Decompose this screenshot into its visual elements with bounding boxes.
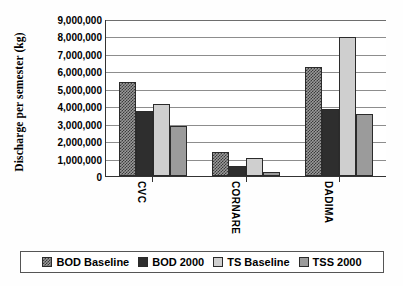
bar[interactable] <box>212 152 229 176</box>
bar[interactable] <box>356 114 373 176</box>
y-axis-tick-label: 1,000,000 <box>58 154 103 165</box>
x-axis-tick <box>246 177 247 182</box>
legend-label: BOD Baseline <box>56 256 129 268</box>
bar[interactable] <box>170 126 187 176</box>
bar[interactable] <box>305 67 322 176</box>
legend-item[interactable]: TS Baseline <box>213 256 289 268</box>
x-axis-category: DADIMA <box>292 179 386 241</box>
x-axis-category-label: CVC <box>136 181 147 203</box>
bar[interactable] <box>246 158 263 176</box>
y-axis-tick-label: 9,000,000 <box>58 15 103 26</box>
chart-legend: BOD BaselineBOD 2000TS BaselineTSS 2000 <box>20 251 384 273</box>
legend-swatch-icon <box>42 257 52 267</box>
bar-groups <box>106 20 386 176</box>
chart-figure: Discharge per semester (kg) 9,000,0008,0… <box>0 0 403 286</box>
legend-swatch-icon <box>138 257 148 267</box>
plot-area <box>105 20 386 177</box>
bar-group <box>199 20 292 176</box>
x-axis-category-label: DADIMA <box>323 181 334 223</box>
x-axis-category-label: CORNARE <box>230 181 241 234</box>
bar[interactable] <box>153 104 170 176</box>
y-axis-tick-label: 5,000,000 <box>58 84 103 95</box>
y-axis-tick-label: 4,000,000 <box>58 102 103 113</box>
x-axis-category: CVC <box>105 179 199 241</box>
bar[interactable] <box>322 109 339 176</box>
bar[interactable] <box>339 37 356 176</box>
bar-group <box>293 20 386 176</box>
legend-label: TSS 2000 <box>313 256 362 268</box>
x-axis-tick <box>152 177 153 182</box>
legend-item[interactable]: BOD 2000 <box>138 256 204 268</box>
y-axis-tick-label: 8,000,000 <box>58 32 103 43</box>
x-axis-category-labels: CVCCORNAREDADIMA <box>105 179 386 241</box>
legend-item[interactable]: TSS 2000 <box>299 256 362 268</box>
legend-label: TS Baseline <box>227 256 289 268</box>
bar[interactable] <box>229 166 246 176</box>
x-axis-category: CORNARE <box>199 179 293 241</box>
legend-item[interactable]: BOD Baseline <box>42 256 129 268</box>
y-axis-tick-label: 6,000,000 <box>58 67 103 78</box>
legend-swatch-icon <box>299 257 309 267</box>
legend-label: BOD 2000 <box>152 256 204 268</box>
y-axis-tick-label: 7,000,000 <box>58 49 103 60</box>
legend-swatch-icon <box>213 257 223 267</box>
y-axis-tick-label: 3,000,000 <box>58 119 103 130</box>
y-axis-tick-labels: 9,000,0008,000,0007,000,0006,000,0005,00… <box>26 14 104 182</box>
bar-group <box>106 20 199 176</box>
bar[interactable] <box>263 172 280 176</box>
bar[interactable] <box>119 82 136 176</box>
y-axis-tick-label: 0 <box>96 172 102 183</box>
bar[interactable] <box>136 111 153 176</box>
y-axis-tick-label: 2,000,000 <box>58 137 103 148</box>
x-axis-tick <box>339 177 340 182</box>
y-axis-title-text: Discharge per semester (kg) <box>13 32 25 171</box>
